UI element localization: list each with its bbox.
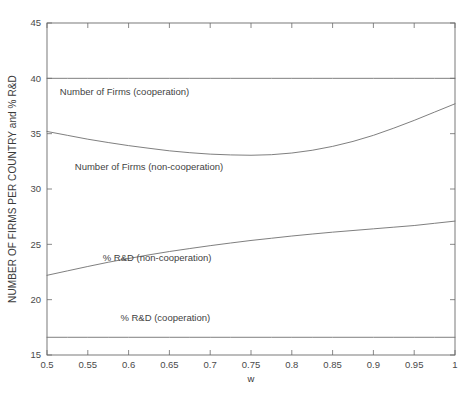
y-tick-label: 30 — [30, 183, 41, 194]
y-tick-label: 35 — [30, 128, 41, 139]
x-tick-label: 1 — [452, 359, 457, 370]
series-annotation-label: % R&D (non-cooperation) — [103, 252, 212, 263]
x-tick-label: 0.8 — [285, 359, 298, 370]
x-tick-label: 0.65 — [160, 359, 179, 370]
y-tick-label: 45 — [30, 17, 41, 28]
series-line — [47, 221, 455, 275]
x-axis-ticks: 0.50.550.60.650.70.750.80.850.90.951 — [40, 23, 457, 370]
line-chart: 0.50.550.60.650.70.750.80.850.90.951 152… — [0, 0, 473, 396]
series-annotation-label: % R&D (cooperation) — [120, 312, 210, 323]
x-tick-label: 0.55 — [79, 359, 98, 370]
y-tick-label: 15 — [30, 349, 41, 360]
y-tick-label: 20 — [30, 294, 41, 305]
x-tick-label: 0.6 — [122, 359, 135, 370]
series-line — [47, 104, 455, 155]
y-tick-label: 40 — [30, 73, 41, 84]
x-tick-label: 0.75 — [242, 359, 261, 370]
x-tick-label: 0.7 — [204, 359, 217, 370]
x-tick-label: 0.95 — [405, 359, 424, 370]
series-annotation-label: Number of Firms (non-cooperation) — [75, 161, 223, 172]
series-annotation-label: Number of Firms (cooperation) — [60, 86, 189, 97]
chart-figure: 0.50.550.60.650.70.750.80.850.90.951 152… — [0, 0, 473, 396]
y-axis-ticks: 15202530354045 — [30, 17, 455, 360]
y-axis-title: NUMBER OF FIRMS PER COUNTRY and % R&D — [7, 75, 18, 303]
series-lines — [47, 78, 455, 337]
y-tick-label: 25 — [30, 239, 41, 250]
x-axis-title: w — [247, 373, 255, 384]
x-tick-label: 0.9 — [367, 359, 380, 370]
x-tick-label: 0.5 — [40, 359, 53, 370]
series-annotations: Number of Firms (cooperation)Number of F… — [60, 86, 223, 323]
x-tick-label: 0.85 — [323, 359, 342, 370]
plot-frame — [47, 23, 455, 355]
